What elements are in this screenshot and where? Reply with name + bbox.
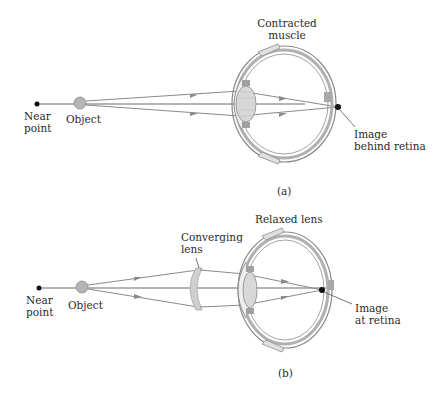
image-at-retina-label: Image at retina — [355, 302, 401, 326]
myopia-hyperopia-diagram: Near point Object Contracted muscle Imag… — [0, 0, 437, 397]
relaxed-lens-label: Relaxed lens — [255, 213, 323, 225]
object-ball-b — [76, 281, 88, 293]
caption-b: (b) — [278, 367, 293, 379]
contracted-muscle-label: Contracted muscle — [252, 17, 322, 41]
image-dot-a — [335, 104, 341, 110]
object-ball-a — [74, 97, 86, 109]
near-point-label-a: Near point — [24, 110, 51, 134]
near-point-label-b: Near point — [26, 294, 53, 318]
diagram-canvas — [0, 0, 437, 397]
object-label-b: Object — [68, 299, 103, 311]
near-point-dot-a — [35, 102, 40, 107]
object-label-a: Object — [66, 113, 101, 125]
converging-lens — [190, 268, 202, 310]
panel-a — [35, 44, 356, 164]
converging-lens-label: Converging lens — [181, 231, 243, 255]
image-behind-retina-label: Image behind retina — [354, 128, 426, 152]
near-point-dot-b — [37, 286, 42, 291]
caption-a: (a) — [277, 185, 291, 197]
